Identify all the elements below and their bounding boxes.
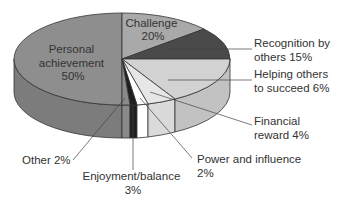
label-power: Power and influence 2%	[197, 153, 304, 179]
pie-chart: Personal achievement 50% Challenge 20% R…	[0, 0, 339, 203]
label-financial: Financial reward 4%	[254, 115, 309, 141]
slice-side-other	[122, 105, 130, 138]
label-recognition: Recognition by others 15%	[254, 37, 333, 63]
label-enjoyment: Enjoyment/balance 3%	[82, 170, 183, 196]
slice-side-financial	[148, 99, 175, 137]
label-other: Other 2%	[22, 154, 71, 166]
slice-side-enjoyment	[130, 105, 137, 138]
slice-side-power	[137, 104, 148, 138]
label-helping: Helping others to succeed 6%	[254, 68, 331, 94]
